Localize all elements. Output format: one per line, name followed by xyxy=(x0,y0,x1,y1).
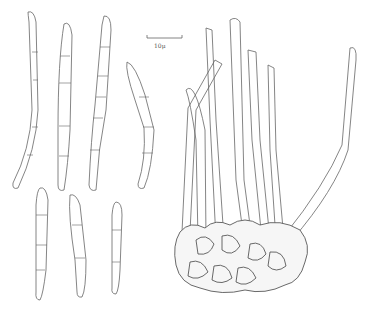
conidiophores xyxy=(182,18,356,240)
stroma xyxy=(175,220,308,293)
conidia xyxy=(13,12,154,300)
illustration: 10μ xyxy=(0,0,369,312)
scale-bar-label: 10μ xyxy=(154,42,166,49)
scale-bar xyxy=(147,35,182,38)
